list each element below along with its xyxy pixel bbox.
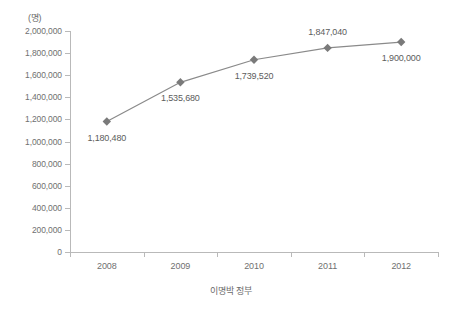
y-tick-label: 400,000 (32, 203, 62, 213)
x-tick-label: 2010 (244, 261, 264, 271)
data-point-label: 1,847,040 (308, 27, 347, 37)
y-tick-mark (65, 230, 70, 231)
x-tick-label: 2008 (97, 261, 117, 271)
series-line (107, 42, 401, 122)
data-point-marker (397, 38, 405, 46)
data-point-label: 1,535,680 (161, 93, 200, 103)
y-tick-label: 800,000 (32, 159, 62, 169)
y-tick-label: 1,000,000 (25, 137, 62, 147)
data-point-marker (323, 44, 331, 52)
y-tick-mark (65, 97, 70, 98)
y-tick-label: 1,400,000 (25, 92, 62, 102)
data-point-label: 1,900,000 (382, 53, 421, 63)
data-point-marker (103, 117, 111, 125)
data-point-marker (250, 56, 258, 64)
y-tick-label: 600,000 (32, 181, 62, 191)
y-tick-label: 1,600,000 (25, 70, 62, 80)
line-chart: (명) 2,000,0001,800,0001,600,0001,400,000… (0, 0, 462, 311)
data-point-label: 1,180,480 (87, 133, 126, 143)
x-tick-mark (438, 252, 439, 257)
y-tick-label: 2,000,000 (25, 26, 62, 36)
x-tick-label: 2009 (171, 261, 191, 271)
x-tick-label: 2012 (391, 261, 411, 271)
y-tick-mark (65, 75, 70, 76)
x-tick-label: 2011 (318, 261, 337, 271)
y-tick-mark (65, 142, 70, 143)
y-tick-label: 1,200,000 (25, 114, 62, 124)
x-tick-mark (364, 252, 365, 257)
x-tick-mark (144, 252, 145, 257)
y-tick-mark (65, 164, 70, 165)
y-tick-mark (65, 186, 70, 187)
x-tick-mark (70, 252, 71, 257)
y-tick-mark (65, 119, 70, 120)
x-tick-mark (291, 252, 292, 257)
x-axis-caption: 이명박 정부 (0, 284, 462, 297)
data-point-label: 1,739,520 (235, 71, 274, 81)
x-axis-line (70, 252, 439, 253)
y-tick-mark (65, 208, 70, 209)
x-tick-mark (217, 252, 218, 257)
y-tick-label: 0 (57, 247, 62, 257)
y-tick-label: 200,000 (32, 225, 62, 235)
data-point-marker (176, 78, 184, 86)
series-markers (103, 38, 406, 126)
y-tick-mark (65, 31, 70, 32)
y-tick-label: 1,800,000 (25, 48, 62, 58)
y-axis-unit-label: (명) (28, 11, 41, 24)
y-axis-line (70, 31, 71, 253)
y-tick-mark (65, 53, 70, 54)
